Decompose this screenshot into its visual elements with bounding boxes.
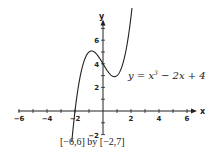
y-tick-label: 4 <box>94 61 99 69</box>
x-tick-label: 6 <box>185 115 190 123</box>
x-tick-label: 2 <box>129 115 134 123</box>
function-label: y = x3 − 2x + 4 <box>127 69 206 81</box>
x-tick-label: −6 <box>14 115 25 123</box>
x-tick-label: −2 <box>70 115 81 123</box>
x-axis-arrow-icon <box>191 109 197 114</box>
y-tick-label: 6 <box>94 37 99 45</box>
x-tick-label: 4 <box>157 115 162 123</box>
viewing-window-caption: [−6,6] by [−2,7] <box>60 136 125 147</box>
x-tick-label: −4 <box>42 115 53 123</box>
y-tick-label: 2 <box>94 84 99 92</box>
y-axis-label: y <box>99 12 105 21</box>
x-axis-label: x <box>200 107 206 116</box>
